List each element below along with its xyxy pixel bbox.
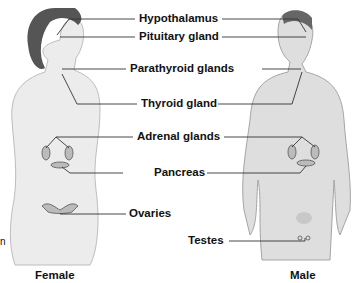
label-pancreas: Pancreas — [154, 167, 205, 179]
label-adrenal-glands: Adrenal glands — [137, 131, 220, 143]
female-figure — [10, 19, 100, 265]
label-pituitary-gland: Pituitary gland — [139, 31, 219, 43]
male-figure — [243, 12, 351, 260]
label-thyroid-gland: Thyroid gland — [141, 98, 217, 110]
caption-female: Female — [35, 270, 75, 282]
label-hypothalamus: Hypothalamus — [139, 13, 218, 25]
edge-text-fragment: n — [0, 237, 6, 247]
label-parathyroid-glands: Parathyroid glands — [130, 63, 234, 75]
endocrine-diagram: Hypothalamus Pituitary gland Parathyroid… — [0, 0, 362, 283]
label-testes: Testes — [188, 235, 224, 247]
label-ovaries: Ovaries — [129, 208, 171, 220]
caption-male: Male — [290, 270, 316, 282]
